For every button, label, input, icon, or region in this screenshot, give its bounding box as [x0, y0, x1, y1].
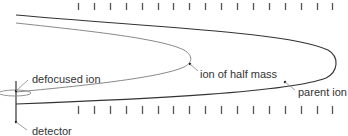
detector-leader: [16, 122, 27, 130]
label-detector: detector: [32, 125, 72, 136]
label-ion-of-half-mass: ion of half mass: [200, 68, 278, 80]
electrode-ticks-bottom: [79, 106, 333, 114]
electrode-ticks-top: [79, 3, 333, 10]
defocused-ion-leader: [16, 80, 28, 91]
label-parent-ion: parent ion: [298, 86, 347, 98]
half-mass-leader: [190, 64, 198, 71]
ion-trajectory-diagram: defocused ion ion of half mass parent io…: [0, 0, 348, 136]
label-defocused-ion: defocused ion: [32, 73, 101, 85]
